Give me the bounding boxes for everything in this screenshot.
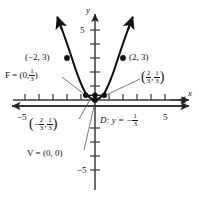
y-tick-label-5: 5 xyxy=(80,26,85,35)
label-focus-fraction: 13 xyxy=(29,68,35,83)
leader-vertex xyxy=(84,102,95,150)
focus-frac-numerator: 1 xyxy=(29,68,35,75)
point-neg2-3 xyxy=(64,55,70,61)
latus-left-y-den: 3 xyxy=(47,124,53,132)
x-tick-label-5: 5 xyxy=(163,113,168,122)
latus-left-x-den: 3 xyxy=(39,124,45,132)
directrix-frac-denominator: 3 xyxy=(132,120,138,128)
point-2-3 xyxy=(120,55,126,61)
directrix-fraction: 13 xyxy=(132,113,138,128)
latus-right-y-den: 3 xyxy=(154,77,160,85)
focus-close-paren: ) xyxy=(35,71,38,80)
latus-right-x-num: 2 xyxy=(146,70,152,77)
latus-left-x-num: 2 xyxy=(39,117,45,124)
latus-left-y-fraction: 13 xyxy=(47,117,53,132)
directrix-frac-numerator: 1 xyxy=(132,113,138,120)
graph-canvas xyxy=(0,0,199,200)
directrix-lhs: D: y = − xyxy=(100,116,132,125)
y-tick-label-neg5: −5 xyxy=(77,166,87,175)
focus-frac-denominator: 3 xyxy=(29,75,35,83)
label-latus-left: (−23, 13) xyxy=(29,117,57,132)
label-point-2-3: (2, 3) xyxy=(129,53,149,62)
leader-latus-left xyxy=(79,98,91,119)
latus-right-x-fraction: 23 xyxy=(146,70,152,85)
leader-latus-right xyxy=(106,79,140,95)
latus-right-y-num: 1 xyxy=(154,70,160,77)
parabola-figure: y x 5 −5 −5 5 (−2, 3) (2, 3) F = (0,13) … xyxy=(0,0,199,200)
latus-right-y-fraction: 13 xyxy=(154,70,160,85)
label-focus: F = (0,13) xyxy=(5,68,38,83)
parabola-arrow-left xyxy=(57,17,62,30)
x-axis-label: x xyxy=(188,89,192,98)
label-directrix: D: y = −13 xyxy=(100,113,138,128)
x-tick-label-neg5: −5 xyxy=(17,113,27,122)
latus-left-y-num: 1 xyxy=(47,117,53,124)
y-axis-label: y xyxy=(86,6,90,15)
label-focus-lhs: F = (0, xyxy=(5,71,29,80)
label-point-neg2-3: (−2, 3) xyxy=(25,53,50,62)
latus-left-x-fraction: 23 xyxy=(39,117,45,132)
parabola-arrow-right xyxy=(128,17,133,30)
latus-right-x-den: 3 xyxy=(146,77,152,85)
label-latus-right: (23, 13) xyxy=(141,70,164,85)
label-vertex: V = (0, 0) xyxy=(27,149,62,158)
